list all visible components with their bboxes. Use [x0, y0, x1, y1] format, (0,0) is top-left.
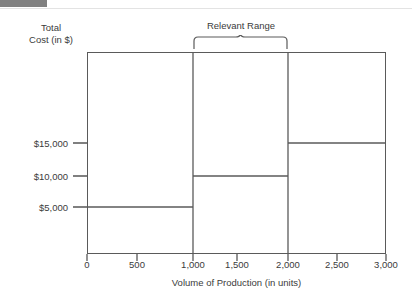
y-tick-label-10000: $10,000 [6, 171, 68, 182]
header-cutoff-text [52, 0, 392, 3]
x-tick-label-0: 0 [65, 259, 109, 270]
step-cost-chart: Total Cost (in $) Relevant Range $15,000… [0, 9, 412, 305]
x-tick-label-1000: 1,000 [171, 259, 215, 270]
x-tick-label-2500: 2,500 [315, 259, 359, 270]
header-color-block [0, 0, 47, 7]
y-tick-label-5000: $5,000 [6, 202, 68, 213]
y-tick-label-15000: $15,000 [6, 138, 68, 149]
x-tick-label-2000: 2,000 [266, 259, 310, 270]
x-axis-title: Volume of Production (in units) [87, 277, 386, 288]
x-tick-label-500: 500 [115, 259, 159, 270]
x-tick-label-1500: 1,500 [215, 259, 259, 270]
x-tick-label-3000: 3,000 [364, 259, 408, 270]
